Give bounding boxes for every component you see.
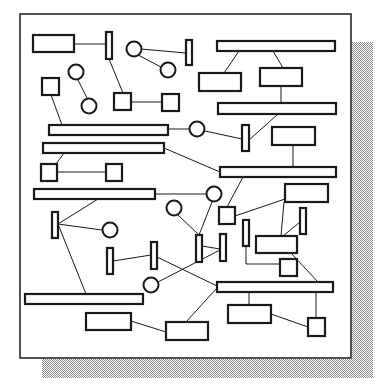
node-rect-r32 [86, 313, 131, 330]
node-rect-r27 [196, 235, 202, 262]
node-rect-r10 [218, 103, 336, 114]
node-rect-r22 [52, 212, 58, 238]
node-rect-r30 [217, 282, 333, 292]
node-circle-c3 [69, 65, 84, 80]
node-circle-c9 [144, 278, 159, 293]
node-rect-r17 [106, 164, 122, 181]
node-rect-r13 [272, 127, 315, 145]
node-rect-r25 [107, 248, 113, 274]
node-rect-r34 [166, 322, 208, 340]
node-rect-r3 [186, 40, 192, 65]
node-circle-c1 [127, 42, 142, 57]
node-rect-r35 [308, 318, 325, 336]
node-rect-r21 [300, 208, 306, 234]
node-circle-c7 [167, 201, 182, 216]
node-rect-r2 [106, 32, 112, 59]
node-rect-r5 [199, 73, 241, 91]
node-rect-r29 [280, 259, 297, 276]
node-rect-r8 [114, 93, 131, 110]
node-rect-r31 [25, 294, 143, 304]
node-rect-r4 [217, 41, 335, 51]
node-rect-r26 [151, 242, 157, 269]
node-rect-r6 [260, 68, 302, 86]
node-rect-r28 [220, 234, 226, 261]
node-rect-r11 [49, 125, 168, 135]
node-rect-r12 [242, 125, 249, 151]
node-rect-r18 [285, 184, 328, 202]
node-rect-r1 [33, 35, 74, 52]
node-rect-r7 [42, 78, 59, 95]
node-circle-c6 [207, 187, 222, 202]
diagram-canvas [0, 0, 378, 387]
node-rect-r23 [243, 220, 249, 246]
node-rect-r15 [220, 167, 336, 177]
node-rect-r24 [256, 236, 297, 253]
node-circle-c8 [103, 223, 118, 238]
node-rect-r9 [162, 94, 179, 111]
node-rect-r14 [43, 143, 164, 153]
node-circle-c5 [190, 122, 205, 137]
node-rect-r16 [41, 164, 57, 181]
node-circle-c2 [161, 63, 176, 78]
shadow-bottom [42, 359, 373, 378]
shadow-right [352, 42, 373, 378]
node-rect-r20 [219, 207, 235, 224]
node-circle-c4 [82, 99, 97, 114]
node-rect-r19 [34, 189, 155, 199]
node-rect-r33 [228, 305, 271, 323]
